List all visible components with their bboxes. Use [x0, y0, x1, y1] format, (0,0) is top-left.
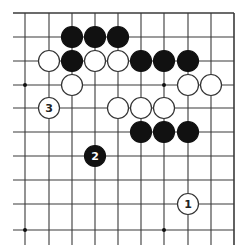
white-stone: [178, 75, 199, 96]
white-stone: [39, 51, 60, 72]
stone-circle: [62, 51, 83, 72]
stone-circle: [178, 75, 199, 96]
stone-circle: [108, 98, 129, 119]
stone-circle: [131, 51, 152, 72]
black-stone: [154, 51, 175, 72]
black-stone: [178, 122, 199, 143]
stone-circle: [108, 51, 129, 72]
star-point: [23, 83, 27, 87]
move-number-label: 2: [91, 150, 99, 163]
stone-circle: [154, 98, 175, 119]
white-stone: [154, 98, 175, 119]
stone-circle: [131, 98, 152, 119]
stone-circle: [62, 75, 83, 96]
white-stone: [108, 98, 129, 119]
stone-circle: [85, 51, 106, 72]
move-number-label: 1: [184, 198, 192, 211]
black-stone: [62, 27, 83, 48]
stones-layer: 321: [39, 27, 222, 215]
move-number-label: 3: [45, 102, 53, 115]
stone-circle: [39, 51, 60, 72]
stone-circle: [62, 27, 83, 48]
stone-circle: [154, 51, 175, 72]
black-stone: [85, 27, 106, 48]
white-stone: [201, 75, 222, 96]
black-stone: [131, 51, 152, 72]
stone-circle: [131, 122, 152, 143]
black-stone: [154, 122, 175, 143]
white-stone: [131, 98, 152, 119]
stone-circle: [178, 51, 199, 72]
star-point: [162, 83, 166, 87]
go-board: 321: [0, 0, 246, 251]
black-stone: [131, 122, 152, 143]
stone-circle: [108, 27, 129, 48]
board-grid: [13, 13, 234, 245]
white-stone: [108, 51, 129, 72]
white-stone: [62, 75, 83, 96]
black-stone: 2: [85, 146, 106, 167]
black-stone: [62, 51, 83, 72]
stone-circle: [154, 122, 175, 143]
star-point: [162, 228, 166, 232]
black-stone: [108, 27, 129, 48]
white-stone: [85, 51, 106, 72]
stone-circle: [201, 75, 222, 96]
black-stone: [178, 51, 199, 72]
star-point: [23, 228, 27, 232]
white-stone: 1: [178, 194, 199, 215]
stone-circle: [85, 27, 106, 48]
stone-circle: [178, 122, 199, 143]
white-stone: 3: [39, 98, 60, 119]
